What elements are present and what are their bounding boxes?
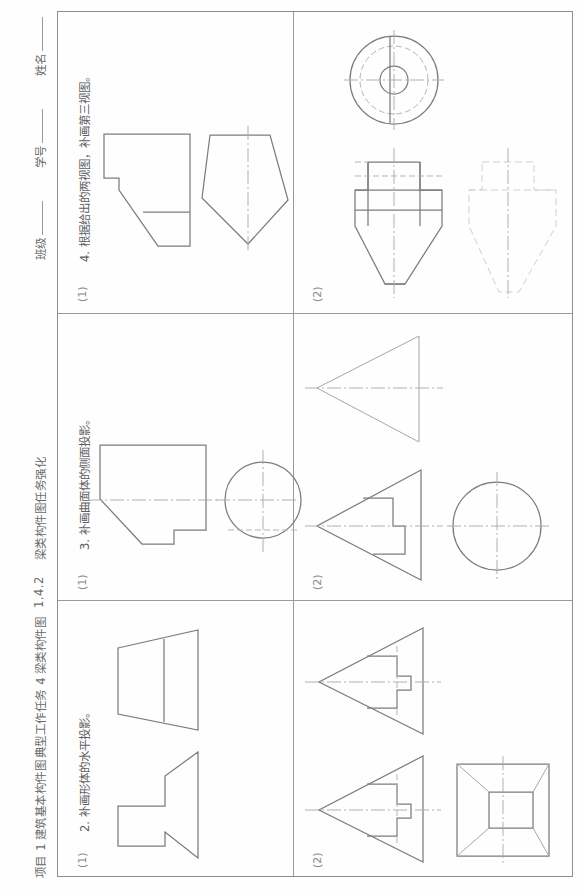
worksheet-page: 项目 1 建筑基本构件图 典型工作任务 4 梁类构件图 1.4.2 梁类构件图任… xyxy=(0,0,581,890)
header-typical-task-title: 梁类构件图 xyxy=(32,617,48,675)
task-4-prompt: 4. 根据给出的两视图，补画第三视图。 xyxy=(76,71,92,262)
header-section-no: 1.4.2 xyxy=(32,576,46,608)
worksheet-frame: 4. 根据给出的两视图，补画第三视图。 (1) (2) xyxy=(57,11,573,877)
drawing-task2-part1 xyxy=(102,624,292,854)
drawing-task3-part2 xyxy=(301,330,551,592)
drawing-task2-part2 xyxy=(301,616,556,868)
field-class[interactable]: 班级 xyxy=(32,199,48,260)
header-project-title: 建筑基本构件图 xyxy=(32,760,48,841)
header-typical-task: 典型工作任务 4 xyxy=(32,677,48,758)
drawing-task4-part2 xyxy=(330,30,560,298)
header-project-label: 项目 1 xyxy=(32,843,48,878)
task-4-subpart-1-label: (1) xyxy=(76,286,89,302)
task-3-prompt: 3. 补画曲面体的侧面投影。 xyxy=(76,414,92,550)
class-blank[interactable] xyxy=(41,201,43,235)
drawing-task3-part1 xyxy=(98,442,298,572)
task-2-subpart-1-label: (1) xyxy=(76,852,89,868)
task-3-subpart-1-label: (1) xyxy=(76,574,89,590)
divider-task-4-3 xyxy=(58,313,572,314)
student-id-blank[interactable] xyxy=(41,109,43,143)
worksheet-header: 项目 1 建筑基本构件图 典型工作任务 4 梁类构件图 1.4.2 梁类构件图任… xyxy=(0,0,57,890)
header-section-title: 梁类构件图任务强化 xyxy=(32,457,48,561)
name-blank[interactable] xyxy=(41,17,43,51)
task-2-prompt: 2. 补画形体的水平投影。 xyxy=(76,707,92,832)
field-name[interactable]: 姓名 xyxy=(32,15,48,76)
task-4-subpart-2-label: (2) xyxy=(311,286,324,302)
field-student-id[interactable]: 学号 xyxy=(32,107,48,168)
divider-task-3-2 xyxy=(58,600,572,601)
drawing-task4-part1 xyxy=(102,132,292,252)
